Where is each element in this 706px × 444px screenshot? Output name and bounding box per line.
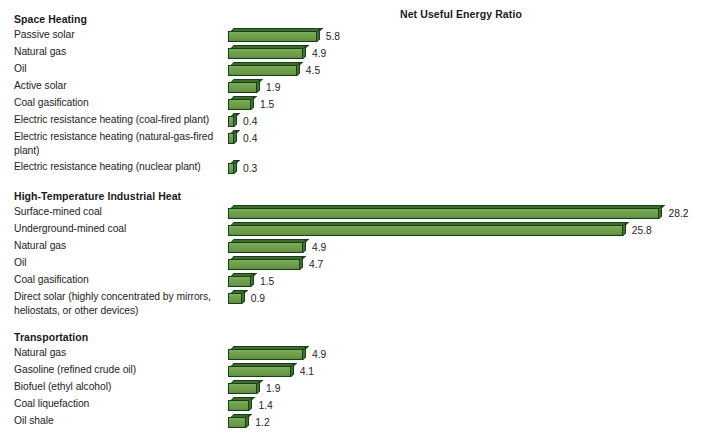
bar-value-label: 1.2 xyxy=(255,417,269,429)
bar-value-label: 28.2 xyxy=(668,208,688,220)
bar xyxy=(228,239,307,256)
bar-face xyxy=(228,31,317,42)
bar xyxy=(228,205,663,222)
bar-label: Natural gas xyxy=(14,239,236,253)
bar-label: Electric resistance heating (natural-gas… xyxy=(14,130,236,157)
bar-side-face xyxy=(251,273,254,287)
chart-row: Underground-mined coal25.8 xyxy=(0,222,706,239)
bar-label: Underground-mined coal xyxy=(14,222,236,236)
section-title: High-Temperature Industrial Heat xyxy=(14,190,181,202)
bar-label: Biofuel (ethyl alcohol) xyxy=(14,380,236,394)
bar-side-face xyxy=(291,363,294,377)
chart-row: Coal gasification1.5 xyxy=(0,96,706,113)
bar-top-face xyxy=(231,414,252,417)
bar-value-label: 4.9 xyxy=(312,349,326,361)
chart-row: Natural gas4.9 xyxy=(0,239,706,256)
chart-row: Oil shale1.2 xyxy=(0,414,706,431)
net-useful-energy-ratio-chart: Net Useful Energy Ratio Space HeatingPas… xyxy=(0,0,706,444)
bar-side-face xyxy=(303,239,306,253)
bar-value-label: 5.8 xyxy=(326,31,340,43)
bar-face xyxy=(228,349,303,360)
bar xyxy=(228,79,261,96)
chart-row: Natural gas4.9 xyxy=(0,45,706,62)
bar-label: Natural gas xyxy=(14,45,236,59)
bar-label: Surface-mined coal xyxy=(14,205,236,219)
bar-side-face xyxy=(303,45,306,59)
bar xyxy=(228,96,255,113)
bar-side-face xyxy=(234,130,237,144)
bar-top-face xyxy=(231,62,303,65)
chart-row: Direct solar (highly concentrated by mir… xyxy=(0,290,706,307)
bar-side-face xyxy=(257,380,260,394)
bar-face xyxy=(228,48,303,59)
bar-face xyxy=(228,65,297,76)
bar xyxy=(228,45,307,62)
bar xyxy=(228,113,238,130)
bar-value-label: 1.5 xyxy=(260,276,274,288)
bar xyxy=(228,256,304,273)
bar xyxy=(228,346,307,363)
bar-face xyxy=(228,259,300,270)
chart-row: Electric resistance heating (coal-fired … xyxy=(0,113,706,130)
bar-value-label: 1.4 xyxy=(258,400,272,412)
bar-label: Coal liquefaction xyxy=(14,397,236,411)
bar-label: Direct solar (highly concentrated by mir… xyxy=(14,290,236,317)
bar-value-label: 1.9 xyxy=(266,82,280,94)
bar xyxy=(228,160,238,177)
bar-label: Coal gasification xyxy=(14,96,236,110)
chart-title: Net Useful Energy Ratio xyxy=(400,8,522,20)
bar-value-label: 4.9 xyxy=(312,48,326,60)
section-title: Transportation xyxy=(14,331,88,343)
bar-value-label: 4.9 xyxy=(312,242,326,254)
bar-side-face xyxy=(234,160,237,174)
bar-value-label: 4.5 xyxy=(306,65,320,77)
bar-top-face xyxy=(231,239,309,242)
bar-side-face xyxy=(317,28,320,42)
bar-side-face xyxy=(303,346,306,360)
chart-row: Passive solar5.8 xyxy=(0,28,706,45)
bar-top-face xyxy=(231,256,306,259)
bar-label: Electric resistance heating (nuclear pla… xyxy=(14,160,236,174)
bar-value-label: 4.1 xyxy=(300,366,314,378)
bar-top-face xyxy=(231,205,665,208)
bar-top-face xyxy=(231,290,248,293)
chart-row: Biofuel (ethyl alcohol)1.9 xyxy=(0,380,706,397)
bar xyxy=(228,222,627,239)
bar-face xyxy=(228,366,291,377)
bar-side-face xyxy=(251,96,254,110)
bar-face xyxy=(228,383,257,394)
section-title: Space Heating xyxy=(14,13,87,25)
chart-row: Active solar1.9 xyxy=(0,79,706,96)
chart-row: Natural gas4.9 xyxy=(0,346,706,363)
bar-side-face xyxy=(623,222,626,236)
bar-label: Natural gas xyxy=(14,346,236,360)
bar-face xyxy=(228,82,257,93)
bar-label: Oil xyxy=(14,62,236,76)
bar-top-face xyxy=(231,28,323,31)
chart-row: Oil4.5 xyxy=(0,62,706,79)
chart-row: Coal liquefaction1.4 xyxy=(0,397,706,414)
bar xyxy=(228,28,321,45)
chart-row: Coal gasification1.5 xyxy=(0,273,706,290)
bar-face xyxy=(228,208,659,219)
bar-top-face xyxy=(231,222,629,225)
bar-side-face xyxy=(297,62,300,76)
bar-label: Gasoline (refined crude oil) xyxy=(14,363,236,377)
bar-value-label: 4.7 xyxy=(309,259,323,271)
bar xyxy=(228,397,253,414)
bar-side-face xyxy=(246,414,249,428)
bar-face xyxy=(228,242,303,253)
bar xyxy=(228,290,246,307)
bar-label: Coal gasification xyxy=(14,273,236,287)
bar-face xyxy=(228,99,251,110)
bar-label: Oil shale xyxy=(14,414,236,428)
chart-row: Electric resistance heating (natural-gas… xyxy=(0,130,706,147)
chart-row: Gasoline (refined crude oil)4.1 xyxy=(0,363,706,380)
bar-face xyxy=(228,293,242,304)
bar-side-face xyxy=(249,397,252,411)
bar-side-face xyxy=(300,256,303,270)
bar-face xyxy=(228,225,623,236)
bar xyxy=(228,62,301,79)
bar xyxy=(228,130,238,147)
bar-face xyxy=(228,276,251,287)
